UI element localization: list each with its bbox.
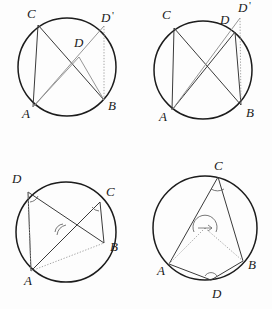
geometry-figure-sheet: A B C D D ' A B C D D ' <box>0 0 272 309</box>
figure-bottom-left: A B C D <box>0 155 136 309</box>
vertex-label-D: D <box>219 12 230 27</box>
vertex-label-B: B <box>246 105 254 120</box>
radius-OB <box>205 228 243 261</box>
chord-CA <box>33 25 38 107</box>
vertex-label-A: A <box>21 106 30 121</box>
chord-AD <box>172 32 235 110</box>
figure-top-right: A B C D D ' <box>136 0 272 154</box>
vertex-label-A: A <box>23 273 32 288</box>
circle-outline <box>18 18 116 116</box>
vertex-label-D: D <box>73 35 84 50</box>
chord-CB <box>100 202 104 243</box>
prime-mark-D: ' <box>249 0 251 11</box>
vertex-label-B: B <box>110 239 118 254</box>
chord-AB-faint <box>31 243 104 271</box>
chord-DB <box>79 57 104 100</box>
radius-OA <box>169 228 205 264</box>
angle-mark-at-D <box>205 273 217 276</box>
angle-mark-at-intersection-inner <box>57 225 66 235</box>
vertex-label-C: C <box>214 158 223 173</box>
vertex-label-D-prime: D <box>100 10 111 25</box>
chord-A-Dprime <box>33 26 104 107</box>
vertex-label-C: C <box>27 6 36 21</box>
vertex-label-D: D <box>11 171 22 186</box>
vertex-label-D: D <box>211 286 222 301</box>
prime-mark-D: ' <box>112 9 114 21</box>
vertex-label-B: B <box>248 257 256 272</box>
vertex-label-C: C <box>162 7 171 22</box>
figure-top-left: A B C D D ' <box>0 0 136 154</box>
chord-AC <box>31 202 100 271</box>
chord-CA <box>169 177 218 264</box>
chord-CA <box>172 28 174 110</box>
circle-outline <box>154 21 252 119</box>
vertex-label-A: A <box>158 109 167 124</box>
vertex-label-A: A <box>156 263 165 278</box>
chord-DB <box>211 261 243 280</box>
chord-A-Dprime <box>172 18 240 110</box>
vertex-label-B: B <box>108 98 116 113</box>
angle-mark-at-center-O <box>193 215 217 232</box>
angle-mark-at-intersection <box>55 224 63 232</box>
vertex-label-D-prime: D <box>237 0 248 15</box>
chord-CB <box>38 25 104 100</box>
vertex-label-C: C <box>106 184 115 199</box>
figure-bottom-right: A B C D <box>136 155 272 309</box>
chord-DB <box>235 32 241 105</box>
